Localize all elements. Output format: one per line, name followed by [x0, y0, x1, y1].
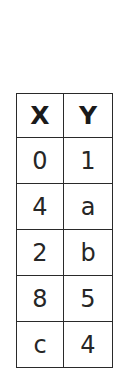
- xy-value-table: X Y 0 1 4 a 2 b 8 5 c 4: [16, 93, 113, 368]
- header-y: Y: [64, 94, 113, 138]
- table-row: 8 5: [17, 276, 113, 322]
- cell-x: 8: [17, 276, 64, 322]
- cell-y: 4: [64, 322, 113, 368]
- header-row: X Y: [17, 94, 113, 138]
- cell-x: 0: [17, 138, 64, 184]
- table-row: 2 b: [17, 230, 113, 276]
- table-row: c 4: [17, 322, 113, 368]
- cell-x: c: [17, 322, 64, 368]
- header-x: X: [17, 94, 64, 138]
- cell-y: a: [64, 184, 113, 230]
- table-header: X Y: [17, 94, 113, 138]
- table-body: 0 1 4 a 2 b 8 5 c 4: [17, 138, 113, 368]
- cell-y: 5: [64, 276, 113, 322]
- table-row: 4 a: [17, 184, 113, 230]
- cell-x: 2: [17, 230, 64, 276]
- table-row: 0 1: [17, 138, 113, 184]
- cell-y: 1: [64, 138, 113, 184]
- cell-x: 4: [17, 184, 64, 230]
- cell-y: b: [64, 230, 113, 276]
